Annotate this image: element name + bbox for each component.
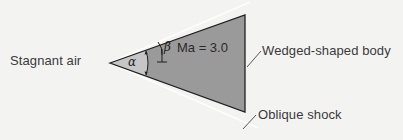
wedge-body-label: Wedged-shaped body — [262, 43, 391, 58]
wedge-diagram — [0, 0, 403, 140]
wedge-leader-line — [247, 51, 261, 67]
stagnant-air-label: Stagnant air — [10, 53, 81, 68]
beta-symbol: β — [164, 40, 171, 54]
alpha-symbol: α — [128, 55, 136, 69]
oblique-shock-label: Oblique shock — [258, 107, 342, 122]
mach-number-label: Ma = 3.0 — [177, 40, 228, 55]
diagram-canvas: Stagnant air α β Ma = 3.0 Wedged-shaped … — [0, 0, 403, 140]
